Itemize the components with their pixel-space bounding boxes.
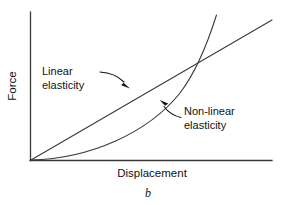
non-linear-elasticity-label-line1: Non-linear bbox=[184, 105, 235, 117]
non-linear-elasticity-arrow-icon bbox=[160, 100, 169, 106]
linear-elasticity-arrow-icon bbox=[121, 83, 130, 89]
linear-elasticity-leader-line bbox=[100, 72, 124, 82]
linear-elasticity-label-line2: elasticity bbox=[42, 79, 85, 91]
x-axis-title: Displacement bbox=[117, 167, 187, 179]
elasticity-plot: Linear elasticity Non-linear elasticity … bbox=[0, 0, 283, 205]
linear-elasticity-label-line1: Linear bbox=[42, 65, 73, 77]
y-axis-title: Force bbox=[6, 71, 18, 100]
annotation-linear-elasticity: Linear elasticity bbox=[42, 65, 130, 91]
figure-panel-b: Linear elasticity Non-linear elasticity … bbox=[0, 0, 283, 205]
axis-titles-group: Force Displacement bbox=[6, 71, 188, 179]
annotation-non-linear-elasticity: Non-linear elasticity bbox=[160, 100, 236, 131]
non-linear-elasticity-label-line2: elasticity bbox=[184, 119, 227, 131]
figure-caption: b bbox=[145, 186, 151, 200]
